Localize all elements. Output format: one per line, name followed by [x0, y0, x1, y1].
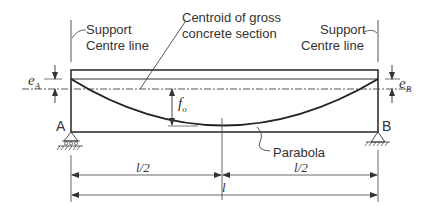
eccentricity-b-label: eB [399, 76, 411, 97]
support-a-roller [57, 132, 83, 150]
half-span-left-label: l/2 [136, 160, 150, 175]
centroid-label-2: concrete section [182, 26, 277, 41]
left-support-label-2: Centre line [86, 38, 149, 53]
right-support-label-2: Centre line [301, 38, 364, 53]
parabola-label: Parabola [273, 145, 325, 160]
right-support-label-1: Support [320, 22, 366, 37]
sag-label: fo [178, 96, 187, 117]
support-a-label: A [56, 119, 65, 134]
support-b-pin [365, 132, 390, 146]
left-support-label-1: Support [86, 22, 132, 37]
left-support-leader [72, 30, 86, 38]
eccentricity-a-label: eA [28, 73, 40, 94]
span-label: l [222, 180, 226, 195]
parabola-leader [257, 127, 270, 151]
tendon-parabola [71, 79, 378, 126]
centroid-label-1: Centroid of gross [182, 10, 281, 25]
half-span-right-label: l/2 [294, 160, 308, 175]
support-b-label: B [382, 119, 391, 134]
